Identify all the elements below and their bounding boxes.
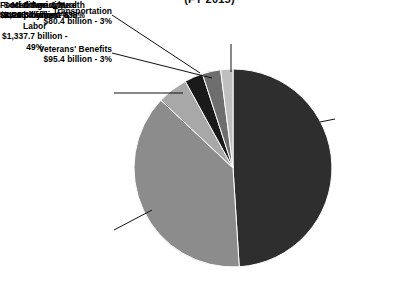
leader-line-medicare xyxy=(114,210,152,230)
callout-social-security-percent: 49% xyxy=(0,42,70,52)
leader-line-socsec xyxy=(320,119,335,122)
callout-social-security-name-line2: Unemployment & xyxy=(0,10,70,20)
pie-chart-figure: (FY 2015) Transportation $80.4 billion -… xyxy=(0,0,419,291)
pie-slice-social-security xyxy=(233,69,332,267)
callout-social-security: Social Security, Unemployment & Labor $1… xyxy=(0,0,70,52)
leader-line-veterans xyxy=(112,53,212,78)
callout-social-security-name-line1: Social Security, xyxy=(0,0,70,10)
callout-social-security-name-line3: Labor xyxy=(0,21,70,31)
callout-social-security-value: $1,337.7 billion - xyxy=(0,31,70,41)
pie-slice-group xyxy=(134,69,332,267)
callout-veterans-benefits-value: $95.4 billion - 3% xyxy=(4,54,112,64)
